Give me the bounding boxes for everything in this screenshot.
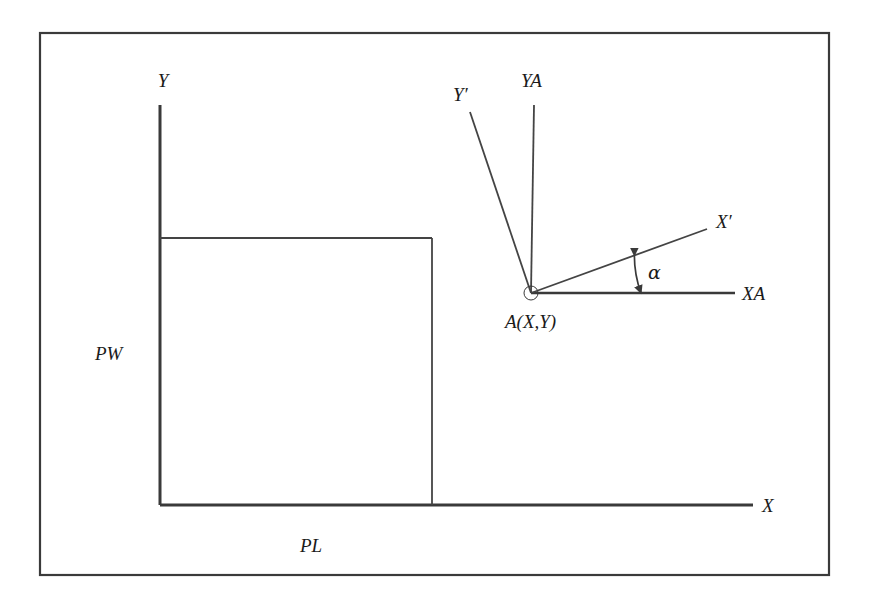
label-local-y-prime: Y′ (453, 84, 469, 105)
local-y-prime-axis (470, 112, 531, 293)
label-local-xa: XA (741, 283, 766, 304)
technical-diagram: Y X PW PL Y′ YA X′ XA A(X,Y) α (0, 0, 869, 607)
local-ya-axis (531, 105, 534, 293)
label-point-a: A(X,Y) (503, 311, 556, 333)
label-global-y: Y (158, 70, 171, 91)
figure-frame (40, 33, 829, 575)
label-plate-width: PW (94, 343, 125, 364)
figure-canvas: Y X PW PL Y′ YA X′ XA A(X,Y) α (0, 0, 869, 607)
label-global-x: X (761, 495, 775, 516)
angle-alpha-arc (634, 255, 641, 293)
label-local-x-prime: X′ (715, 211, 733, 232)
label-angle-alpha: α (648, 261, 661, 283)
label-plate-length: PL (299, 535, 322, 556)
local-x-prime-axis (531, 229, 707, 293)
label-local-ya: YA (521, 70, 542, 91)
